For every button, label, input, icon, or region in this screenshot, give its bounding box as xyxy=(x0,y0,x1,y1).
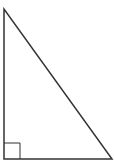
right-triangle-diagram xyxy=(0,0,114,167)
triangle-shape xyxy=(4,9,112,159)
right-angle-marker xyxy=(4,143,20,159)
